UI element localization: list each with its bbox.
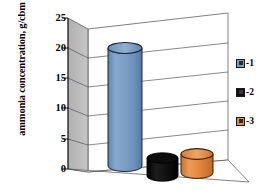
y-tick-20: 20 (46, 43, 66, 53)
legend-label-3: -3 (246, 117, 254, 126)
y-tick-15: 15 (46, 73, 66, 83)
legend-item-1[interactable]: -1 (236, 58, 275, 68)
legend-label-2: -2 (246, 88, 254, 97)
y-tick-25: 25 (46, 13, 66, 23)
bar-cylinder-1 (108, 43, 142, 172)
y-tick-5: 5 (46, 134, 66, 144)
side-wall (68, 18, 88, 172)
chart-container: ammonia concentration, g/cbm 25 20 15 10… (0, 0, 275, 195)
legend-swatch-2-icon (236, 88, 245, 97)
y-axis-tick-labels: 25 20 15 10 5 0 (42, 0, 66, 195)
bar-cylinder-2 (147, 153, 178, 181)
legend-item-3[interactable]: -3 (236, 116, 275, 126)
y-tick-0: 0 (46, 164, 66, 174)
legend-swatch-1-icon (236, 59, 245, 68)
legend-label-1: -1 (246, 59, 254, 68)
legend-swatch-3-icon (236, 117, 245, 126)
bar-cylinder-3 (181, 149, 213, 179)
chart-legend: -1 -2 -3 (236, 58, 275, 145)
y-tick-10: 10 (46, 103, 66, 113)
y-axis-title: ammonia concentration, g/cbm (16, 0, 30, 144)
legend-item-2[interactable]: -2 (236, 87, 275, 97)
